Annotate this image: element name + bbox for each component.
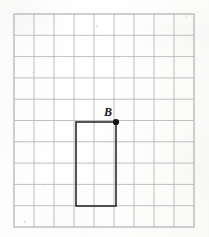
grid-lines xyxy=(14,14,194,227)
rectangle-outline xyxy=(76,122,116,206)
point-b-marker xyxy=(113,119,119,125)
point-b-dot xyxy=(113,119,119,125)
figure-canvas: B xyxy=(0,0,209,237)
rectangle-shape xyxy=(76,122,116,206)
point-b-label: B xyxy=(104,106,112,118)
